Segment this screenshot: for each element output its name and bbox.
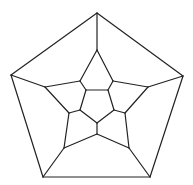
- graph-edge: [113, 81, 148, 87]
- graph-edge: [64, 113, 69, 148]
- graph-edge: [129, 148, 150, 177]
- dodecahedron-diagram: [0, 0, 193, 185]
- graph-edge: [45, 87, 69, 113]
- graph-edge: [45, 81, 80, 87]
- graph-edge: [80, 110, 97, 123]
- graph-edge: [97, 110, 114, 123]
- graph-edge: [80, 90, 86, 110]
- graph-edge: [108, 81, 113, 90]
- graph-edge: [108, 90, 114, 110]
- graph-edge: [11, 13, 97, 75]
- graph-edge: [11, 75, 45, 87]
- graph-edge: [64, 134, 97, 148]
- graph-edge: [125, 113, 129, 148]
- graph-edge: [148, 76, 183, 87]
- graph-edge: [114, 110, 125, 113]
- graph-edge: [80, 50, 97, 81]
- graph-edge: [80, 81, 86, 90]
- graph-edge: [11, 75, 43, 177]
- graph-edge: [150, 76, 183, 177]
- graph-edge: [69, 110, 80, 113]
- graph-edge: [97, 13, 183, 76]
- graph-edge: [125, 87, 148, 113]
- graph-edge: [97, 50, 113, 81]
- graph-edge: [97, 134, 129, 148]
- graph-edge: [43, 148, 64, 177]
